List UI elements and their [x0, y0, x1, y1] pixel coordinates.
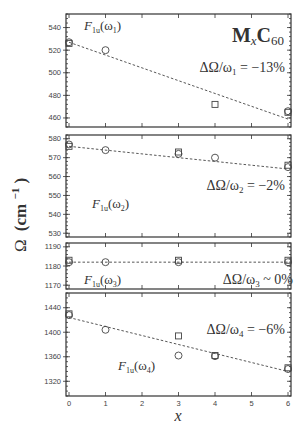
fit-line	[69, 42, 288, 119]
data-point-circle	[102, 326, 109, 333]
y-tick-label: 520	[48, 46, 61, 55]
x-axis-label: x	[173, 407, 181, 424]
mode-label-sub: 1u	[126, 366, 134, 375]
mode-label: F1u(ω3)	[83, 272, 121, 289]
x-tick-label: 2	[140, 399, 144, 408]
x-tick-label: 5	[249, 399, 253, 408]
mode-label-sub: 1u	[100, 204, 108, 213]
chart-title: MxC60	[232, 24, 284, 48]
y-tick-label: 1180	[45, 262, 61, 271]
y-tick-label: 1440	[44, 303, 61, 312]
y-tick-label: 530	[48, 229, 61, 238]
y-tick-label: 1400	[44, 328, 61, 337]
delta-annotation-pre: ΔΩ/ω	[207, 178, 240, 193]
y-tick-label: 500	[48, 68, 61, 77]
y-tick-label: 550	[48, 191, 61, 200]
mode-label-close: )	[117, 272, 121, 287]
y-tick-label: 1190	[45, 242, 61, 251]
title-c: C	[257, 24, 271, 46]
delta-annotation-post: = −13%	[237, 60, 286, 75]
y-axis-label-close: )	[11, 178, 30, 184]
x-tick-label: 6	[286, 399, 290, 408]
x-tick-label: 1	[103, 399, 107, 408]
mode-label-close: )	[151, 358, 155, 373]
mode-label-arg: (ω	[100, 272, 113, 287]
y-tick-label: 560	[48, 172, 61, 181]
delta-annotation-post: = −6%	[244, 322, 286, 337]
delta-annotation-pre: ΔΩ/ω	[200, 60, 233, 75]
y-tick-label: 540	[48, 210, 61, 219]
title-sub-60: 60	[271, 33, 284, 48]
data-point-square	[176, 333, 182, 339]
delta-annotation: ΔΩ/ω3 ~ 0%	[223, 272, 294, 289]
mode-label-close: )	[125, 196, 129, 211]
data-point-square	[176, 149, 182, 155]
mode-label-arg: (ω	[100, 18, 113, 33]
panels: 460480500520540F1u(ω1)ΔΩ/ω1 = −13%530540…	[44, 14, 293, 408]
data-point-circle	[175, 150, 182, 157]
y-axis-label-exp: −1	[9, 188, 21, 200]
panel-3: 117011801190F1u(ω3)ΔΩ/ω3 ~ 0%	[45, 242, 293, 289]
delta-annotation-pre: ΔΩ/ω	[207, 322, 240, 337]
mode-label-sub: 1u	[92, 280, 100, 289]
y-tick-label: 1360	[44, 352, 61, 361]
y-tick-label: 480	[48, 91, 61, 100]
mode-label-arg: (ω	[134, 358, 147, 373]
data-point-circle	[175, 352, 182, 359]
y-tick-label: 460	[48, 113, 61, 122]
x-tick-label: 0	[67, 399, 71, 408]
delta-annotation: ΔΩ/ω4 = −6%	[207, 322, 286, 339]
y-axis-label: Ω (cm −1 )	[4, 178, 30, 252]
mode-label-sub: 1u	[92, 26, 100, 35]
mode-label: F1u(ω1)	[83, 18, 121, 35]
y-tick-label: 570	[48, 153, 61, 162]
delta-annotation-post: = −2%	[244, 178, 286, 193]
data-point-square	[212, 101, 218, 107]
y-tick-label: 1170	[45, 281, 61, 290]
title-m: M	[232, 24, 251, 46]
data-point-circle	[102, 47, 109, 54]
delta-annotation-post: ~ 0%	[260, 272, 294, 287]
delta-annotation-pre: ΔΩ/ω	[223, 272, 256, 287]
y-tick-label: 540	[48, 23, 61, 32]
chart: Ω (cm −1 ) x MxC60 460480500520540F1u(ω1…	[0, 0, 303, 431]
panel-4: 13201360140014400123456F1u(ω4)ΔΩ/ω4 = −6…	[44, 293, 291, 408]
mode-label-arg: (ω	[108, 196, 121, 211]
mode-label: F1u(ω4)	[117, 358, 155, 375]
x-tick-label: 3	[176, 399, 180, 408]
delta-annotation: ΔΩ/ω2 = −2%	[207, 178, 286, 195]
y-tick-label: 580	[48, 134, 61, 143]
panel-1: 460480500520540F1u(ω1)ΔΩ/ω1 = −13%	[48, 14, 291, 127]
y-axis-label-unit: (cm	[11, 204, 30, 231]
mode-label-close: )	[117, 18, 121, 33]
y-tick-label: 1320	[44, 377, 61, 386]
mode-label: F1u(ω2)	[91, 196, 129, 213]
data-point-circle	[212, 154, 219, 161]
panel-2: 530540550560570580F1u(ω2)ΔΩ/ω2 = −2%	[48, 134, 291, 237]
y-axis-label-omega: Ω	[11, 239, 30, 252]
x-tick-label: 4	[213, 399, 217, 408]
delta-annotation: ΔΩ/ω1 = −13%	[200, 60, 286, 77]
